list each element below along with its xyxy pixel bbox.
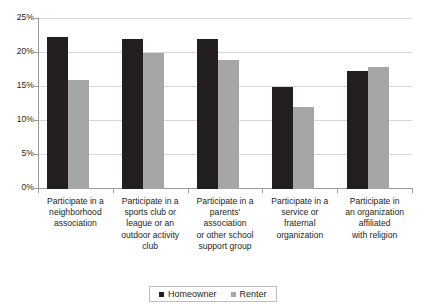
x-category-label-line: support group [188,241,263,252]
x-category-label-line: fraternal [262,218,337,229]
x-category-label-line: sports club or [113,207,188,218]
category-separator [262,188,263,193]
category-separator [412,188,413,193]
legend-entry: Renter [231,289,267,299]
y-tick-label: 10% [0,115,34,124]
x-category-label-line: with religion [337,230,412,241]
legend-entry: Homeowner [159,289,217,299]
x-category-label-line: Participate in [337,196,412,207]
x-category-label-line: outdoor activity [113,230,188,241]
legend-swatch-homeowner-icon [159,292,164,297]
x-category-label-line: neighborhood [38,207,113,218]
category-separator [38,188,39,193]
bar-renter [68,80,89,189]
bar-renter [293,107,314,189]
chart-legend: HomeownerRenter [149,286,277,302]
x-category-label-line: organization [262,230,337,241]
x-category-label: Participate in asports club orleague or … [113,196,188,252]
x-category-label: Participate inan organizationaffiliatedw… [337,196,412,241]
legend-label: Homeowner [168,289,217,299]
x-category-label-line: association [38,218,113,229]
y-tick-label: 5% [0,149,34,158]
bars-layer [38,0,412,189]
legend-label: Renter [240,289,267,299]
category-separator [337,188,338,193]
x-category-label-line: service or [262,207,337,218]
bar-homeowner [347,71,368,189]
x-category-label-line: Participate in a [188,196,263,207]
x-category-label-line: or other school [188,230,263,241]
y-tick-label: 0% [0,183,34,192]
x-category-label-line: parents' association [188,207,263,229]
bar-renter [368,67,389,189]
bar-homeowner [122,39,143,189]
y-tick-label: 15% [0,81,34,90]
bar-chart: 25%20%15%10%5%0% Participate in aneighbo… [0,0,424,308]
category-separator [188,188,189,193]
category-separator [113,188,114,193]
x-category-label-line: Participate in a [262,196,337,207]
legend-swatch-renter-icon [231,292,236,297]
x-category-label-line: club [113,241,188,252]
x-category-label: Participate in aparents' associationor o… [188,196,263,252]
x-axis-category-labels: Participate in aneighborhoodassociationP… [38,196,412,272]
y-axis: 25%20%15%10%5%0% [0,0,34,200]
bar-homeowner [47,37,68,189]
bar-renter [218,60,239,189]
bar-renter [143,53,164,189]
plot-area: 25%20%15%10%5%0% [0,0,424,200]
bar-homeowner [197,39,218,189]
x-category-label-line: Participate in a [113,196,188,207]
x-category-label-line: affiliated [337,218,412,229]
x-category-label: Participate in aservice orfraternalorgan… [262,196,337,241]
bar-homeowner [272,87,293,189]
x-category-label-line: Participate in a [38,196,113,207]
x-category-label-line: an organization [337,207,412,218]
y-tick-label: 20% [0,47,34,56]
x-category-label: Participate in aneighborhoodassociation [38,196,113,230]
y-tick-label: 25% [0,13,34,22]
x-category-label-line: league or an [113,218,188,229]
